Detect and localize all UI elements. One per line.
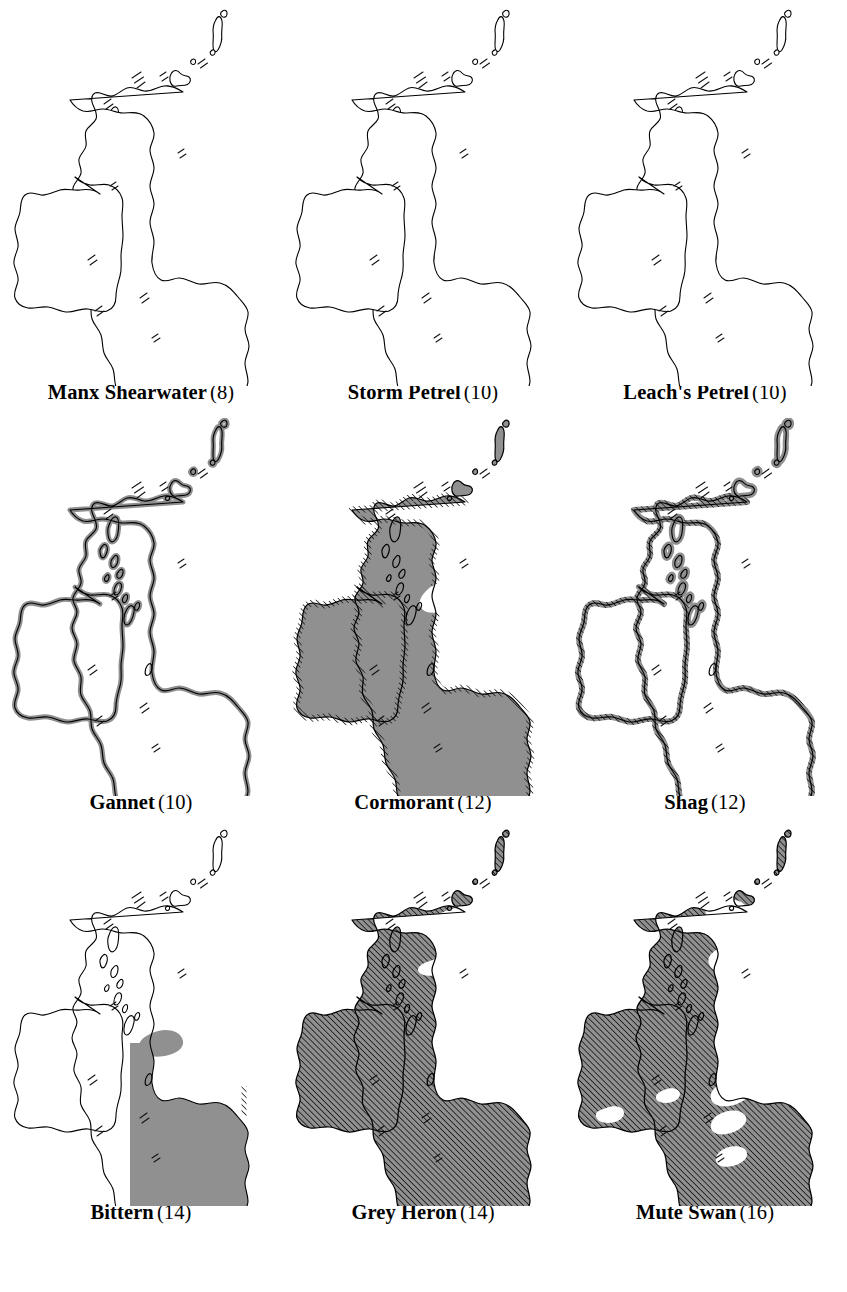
distribution-map-figure: Manx Shearwater(8) Storm Petrel(10) Leac… <box>0 0 847 1292</box>
map-cell-storm-petrel: Storm Petrel(10) <box>282 8 564 418</box>
map-row-2: Gannet(10) Cormorant(12) Shag(12) <box>0 418 847 828</box>
map-cormorant <box>282 418 564 796</box>
map-cell-grey-heron: Grey Heron(14) <box>282 828 564 1238</box>
map-shag <box>564 418 846 796</box>
map-mute-swan <box>564 828 846 1206</box>
map-cell-shag: Shag(12) <box>564 418 846 828</box>
map-row-3: Bittern(14) Grey Heron(14) Mute Swan(16) <box>0 828 847 1238</box>
map-grey-heron <box>282 828 564 1206</box>
map-cell-bittern: Bittern(14) <box>0 828 282 1238</box>
map-cell-gannet: Gannet(10) <box>0 418 282 828</box>
map-storm-petrel <box>282 8 564 386</box>
map-cell-mute-swan: Mute Swan(16) <box>564 828 846 1238</box>
map-cell-manx-shearwater: Manx Shearwater(8) <box>0 8 282 418</box>
map-gannet <box>0 418 282 796</box>
map-row-1: Manx Shearwater(8) Storm Petrel(10) Leac… <box>0 8 847 418</box>
map-leachs-petrel <box>564 8 846 386</box>
map-bittern <box>0 828 282 1206</box>
map-manx-shearwater <box>0 8 282 386</box>
map-cell-leachs-petrel: Leach's Petrel(10) <box>564 8 846 418</box>
map-cell-cormorant: Cormorant(12) <box>282 418 564 828</box>
